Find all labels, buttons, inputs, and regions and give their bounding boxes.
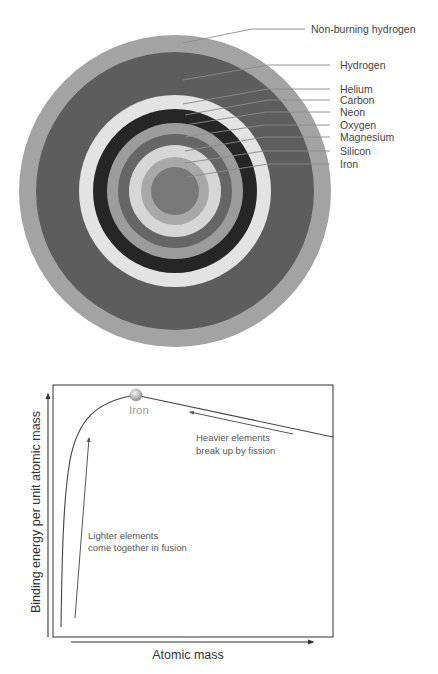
fusion-arrow-line [75, 438, 89, 618]
layer-ring-iron [151, 167, 199, 215]
label-carbon: Carbon [340, 94, 375, 106]
label-hydrogen: Hydrogen [340, 59, 386, 71]
iron-peak-label: Iron [129, 404, 149, 416]
iron-peak-marker [130, 389, 142, 401]
fusion-note-line-2: come together in fusion [88, 542, 187, 553]
fission-note-line-1: Heavier elements [196, 432, 270, 443]
binding-energy-chart: Iron Heavier elements break up by fissio… [29, 385, 333, 662]
star-layer-diagram [19, 29, 331, 347]
star-layer-labels: Non-burning hydrogen Hydrogen Helium Car… [311, 23, 416, 170]
label-silicon: Silicon [340, 145, 371, 157]
label-oxygen: Oxygen [340, 119, 376, 131]
x-axis-label: Atomic mass [152, 648, 224, 662]
fusion-note-line-1: Lighter elements [88, 530, 158, 541]
label-non-burning-hydrogen: Non-burning hydrogen [311, 23, 416, 35]
fission-arrow [190, 412, 293, 434]
y-axis-label: Binding energy per unit atomic mass [29, 411, 43, 613]
figure-canvas: Non-burning hydrogen Hydrogen Helium Car… [0, 0, 438, 674]
binding-energy-curve [61, 395, 333, 627]
fission-note: Heavier elements break up by fission [196, 432, 275, 456]
fusion-note: Lighter elements come together in fusion [88, 530, 187, 553]
label-iron: Iron [340, 158, 358, 170]
label-magnesium: Magnesium [340, 131, 395, 143]
chart-frame [53, 385, 333, 637]
fission-note-line-2: break up by fission [196, 445, 275, 456]
label-neon: Neon [340, 106, 365, 118]
